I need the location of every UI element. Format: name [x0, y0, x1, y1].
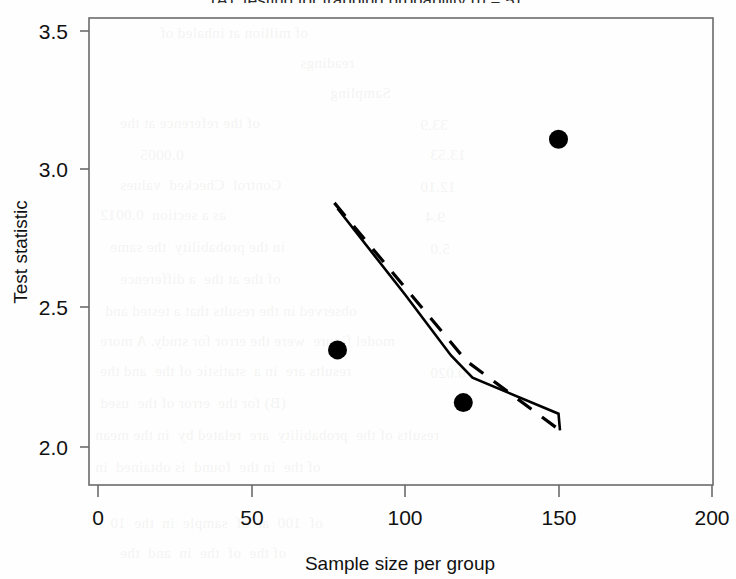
data-point-0	[328, 340, 347, 359]
y-tick-label-1: 2.5	[39, 296, 68, 319]
y-axis-ticks	[80, 31, 89, 447]
y-tick-label-3: 3.5	[39, 20, 68, 43]
data-point-2	[549, 130, 568, 149]
data-point-1	[454, 393, 473, 412]
x-axis-title: Sample size per group	[305, 553, 495, 574]
scanned-page: of million at inhaled of readings Sampli…	[0, 0, 736, 579]
x-tick-label-1: 50	[240, 506, 263, 529]
data-series-layer	[328, 130, 568, 431]
x-tick-label-3: 150	[541, 506, 576, 529]
solid-trend-line	[338, 209, 561, 431]
dashed-trend-line	[334, 203, 560, 431]
plot-frame	[89, 18, 713, 485]
y-axis-title: Test statistic	[10, 200, 31, 303]
x-tick-label-0: 0	[92, 506, 104, 529]
x-axis-ticks	[98, 485, 712, 497]
y-tick-label-0: 2.0	[39, 436, 68, 459]
y-tick-label-2: 3.0	[39, 158, 68, 181]
x-tick-label-2: 100	[387, 506, 422, 529]
chart-canvas: 3.5 3.0 2.5 2.0 0 50 100 150 200 Test st…	[0, 0, 736, 579]
x-tick-label-4: 200	[694, 506, 729, 529]
